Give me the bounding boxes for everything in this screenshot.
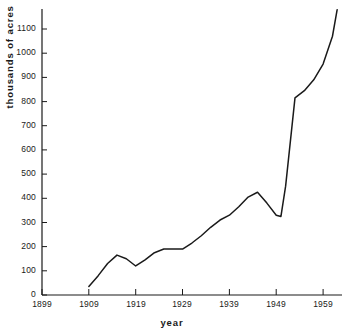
x-tick-label: 1949 <box>258 299 294 309</box>
x-tick-label: 1959 <box>305 299 341 309</box>
x-tick-label: 1939 <box>211 299 247 309</box>
data-series-line <box>89 10 337 287</box>
x-axis-title: year <box>0 317 344 328</box>
y-axis-ticks <box>42 29 47 295</box>
x-tick-label: 1909 <box>71 299 107 309</box>
x-tick-label: 1899 <box>24 299 60 309</box>
x-tick-label: 1919 <box>118 299 154 309</box>
y-tick-label: 400 <box>10 192 36 202</box>
y-tick-label: 100 <box>10 265 36 275</box>
x-axis-ticks <box>42 289 323 295</box>
y-tick-label: 700 <box>10 120 36 130</box>
chart-figure: 0 100 200 300 400 500 600 700 800 900 10… <box>0 0 344 332</box>
x-tick-label: 1929 <box>164 299 200 309</box>
y-axis-title-text: thousands of acres <box>4 5 15 108</box>
y-axis-title: thousands of acres <box>4 95 15 109</box>
line-chart-plot <box>0 0 344 332</box>
y-tick-label: 0 <box>10 289 36 299</box>
y-tick-label: 300 <box>10 217 36 227</box>
y-tick-label: 200 <box>10 241 36 251</box>
y-tick-label: 500 <box>10 168 36 178</box>
y-tick-label: 600 <box>10 144 36 154</box>
